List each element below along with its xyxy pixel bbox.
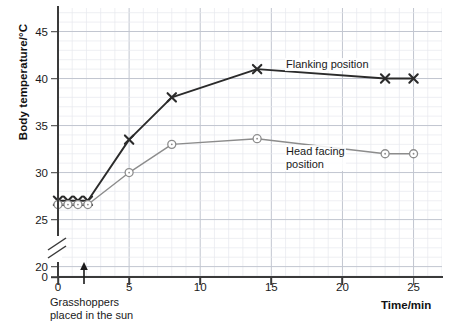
y-axis-title: Body temperature/°C	[17, 7, 29, 157]
y-tick-label: 25	[8, 214, 48, 226]
x-axis-title: Time/min	[381, 299, 431, 311]
y-tick-label: 30	[8, 167, 48, 179]
annotation-grasshoppers: Grasshoppers placed in the sun	[50, 296, 133, 322]
x-tick-mark	[128, 278, 130, 285]
x-tick-mark	[199, 278, 201, 285]
x-tick-mark	[271, 278, 273, 285]
annotation-line-2: placed in the sun	[50, 309, 133, 322]
x-tick-mark	[57, 278, 59, 285]
axis-break-icon	[46, 236, 70, 262]
x-tick-mark	[342, 278, 344, 285]
series-label-flanking-position: Flanking position	[285, 58, 370, 71]
tick-label-layer: 20253035404500510152025	[0, 0, 457, 328]
y-tick-mark	[51, 78, 58, 80]
y-tick-mark	[51, 172, 58, 174]
y-tick-mark	[51, 31, 58, 33]
chart-root: 20253035404500510152025 Body temperature…	[0, 0, 457, 328]
series-label-head-facing-line-2: position	[286, 158, 345, 171]
y-tick-mark	[51, 125, 58, 127]
y-tick-mark	[51, 219, 58, 221]
series-label-head-facing-position: Head facing position	[285, 145, 346, 171]
annotation-line-1: Grasshoppers	[50, 296, 133, 309]
y-tick-mark	[51, 266, 58, 268]
annotation-arrow-icon	[78, 262, 90, 284]
series-label-head-facing-line-1: Head facing	[286, 145, 345, 158]
y-tick-label-zero: 0	[8, 271, 48, 283]
x-tick-mark	[413, 278, 415, 285]
